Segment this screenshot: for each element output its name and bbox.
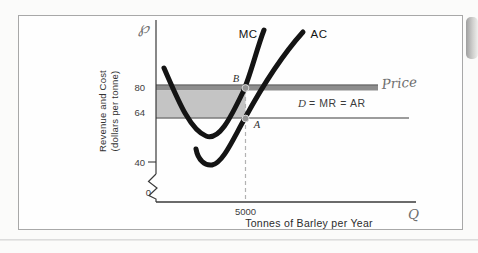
y-tick-80: 80 <box>134 82 145 93</box>
x-axis-label: Tonnes of Barley per Year <box>245 217 373 229</box>
textbook-figure-page: 80 64 40 0 5000 Revenue and Cost (dollar… <box>0 0 478 253</box>
point-b-dot <box>242 85 249 92</box>
q-handwriting: Q <box>408 206 419 222</box>
point-a-label: A <box>253 119 261 130</box>
price-handwriting: Price <box>380 74 417 93</box>
plot-svg: 80 64 40 0 5000 Revenue and Cost (dollar… <box>0 0 478 253</box>
p-handwriting: ℘ <box>138 18 150 37</box>
point-b-label: B <box>233 73 240 84</box>
demand-eq-label: = MR = AR <box>309 97 366 109</box>
y-axis-label-line2: (dollars per tonne) <box>109 71 120 152</box>
x-tick-5000: 5000 <box>235 206 256 217</box>
y-tick-64: 64 <box>134 107 145 118</box>
mc-label: MC <box>239 28 258 40</box>
demand-d-label: D <box>297 97 306 109</box>
y-axis-label-line1: Revenue and Cost <box>97 70 108 152</box>
page-edge-line <box>0 239 478 241</box>
y-tick-0: 0 <box>146 187 151 198</box>
y-tick-40: 40 <box>134 157 145 168</box>
point-a-dot <box>242 115 249 122</box>
ac-label: AC <box>311 28 328 40</box>
page-curl-artifact <box>466 17 478 59</box>
